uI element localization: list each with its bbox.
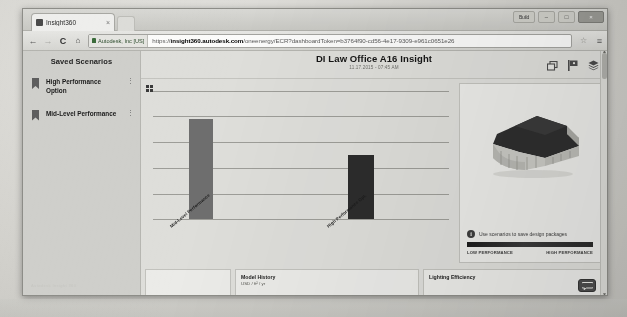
ssl-label: Autodesk, Inc [US] xyxy=(98,38,144,44)
window-controls: Build – □ × xyxy=(513,11,604,23)
feedback-icon xyxy=(582,282,593,290)
saved-scenarios-sidebar: Saved Scenarios High Performance Option … xyxy=(23,51,141,296)
bottom-card-model-history[interactable]: Model History USD / ft² / yr xyxy=(235,269,419,296)
chart-plot-area: Mid-Level Performance High Performance O… xyxy=(153,91,449,219)
sidebar-item-mid-level-performance[interactable]: Mid-Level Performance ⋮ xyxy=(23,109,140,121)
url-host: insight360.autodesk.com xyxy=(171,37,244,44)
info-icon: i xyxy=(467,230,475,238)
sidebar-title: Saved Scenarios xyxy=(23,57,140,66)
scenario-preview-card: i Use scenarios to save design packages … xyxy=(459,83,601,263)
ssl-badge: Autodesk, Inc [US] xyxy=(89,35,148,47)
photographed-page: Insight360 × Build – □ × ← → C ⌂ Autodes… xyxy=(0,0,627,317)
close-icon[interactable]: × xyxy=(106,19,110,26)
minimize-button[interactable]: – xyxy=(538,11,555,23)
bottom-card-1[interactable] xyxy=(145,269,231,296)
paper-fold-shadow xyxy=(0,299,627,317)
url-text: https://insight360.autodesk.com/oneenerg… xyxy=(148,37,458,44)
content-row: Mid-Level Performance High Performance O… xyxy=(141,79,607,267)
url-scheme: https:// xyxy=(152,37,170,44)
gridline xyxy=(153,116,449,117)
favicon-icon xyxy=(36,19,43,26)
page-title: DI Law Office A16 Insight xyxy=(141,51,607,64)
layers-icon[interactable] xyxy=(588,57,599,75)
page-watermark: Autodesk Insight 360 xyxy=(31,283,76,288)
address-bar[interactable]: Autodesk, Inc [US] https://insight360.au… xyxy=(88,34,572,48)
feedback-button[interactable] xyxy=(578,279,596,292)
bottom-card-title: Model History xyxy=(241,274,413,280)
scenario-notice: i Use scenarios to save design packages xyxy=(467,230,593,238)
scroll-down-icon[interactable]: ▼ xyxy=(602,292,607,296)
sidebar-item-label: High Performance Option xyxy=(46,77,120,96)
home-icon[interactable]: ⌂ xyxy=(73,36,83,45)
main-header: DI Law Office A16 Insight 11.17.2015 - 0… xyxy=(141,51,607,79)
new-tab-button[interactable] xyxy=(117,16,135,31)
sidebar-item-label: Mid-Level Performance xyxy=(46,109,120,118)
scrollbar-thumb[interactable] xyxy=(602,53,607,79)
browser-titlebar: Insight360 × Build – □ × xyxy=(23,9,607,31)
gridline xyxy=(153,91,449,92)
page-timestamp: 11.17.2015 - 07:45 AM xyxy=(141,65,607,70)
scale-low-label: LOW PERFORMANCE xyxy=(467,250,513,255)
back-icon[interactable]: ← xyxy=(28,36,38,46)
tab-label: Insight360 xyxy=(46,19,103,26)
building-3d-model xyxy=(475,108,587,186)
more-options-icon[interactable]: ⋮ xyxy=(127,78,133,83)
bookmark-icon xyxy=(32,110,39,121)
lock-icon xyxy=(92,38,96,43)
forward-icon[interactable]: → xyxy=(43,36,53,46)
bottom-widget-strip: Model History USD / ft² / yr Lighting Ef… xyxy=(141,267,607,296)
duplicate-icon[interactable] xyxy=(547,57,558,75)
energy-cost-bar-chart[interactable]: Mid-Level Performance High Performance O… xyxy=(141,79,457,267)
bookmark-icon xyxy=(32,78,39,89)
build-badge: Build xyxy=(513,11,535,23)
performance-scale-bar xyxy=(467,242,593,247)
sidebar-item-high-performance-option[interactable]: High Performance Option ⋮ xyxy=(23,77,140,96)
browser-toolbar: ← → C ⌂ Autodesk, Inc [US] https://insig… xyxy=(23,31,607,51)
scale-high-label: HIGH PERFORMANCE xyxy=(546,250,593,255)
building-model-viewport[interactable] xyxy=(467,90,593,227)
app-body: Saved Scenarios High Performance Option … xyxy=(23,51,607,296)
close-window-button[interactable]: × xyxy=(578,11,604,23)
browser-window: Insight360 × Build – □ × ← → C ⌂ Autodes… xyxy=(22,8,608,296)
browser-tab-insight360[interactable]: Insight360 × xyxy=(31,13,115,31)
flag-icon[interactable] xyxy=(568,57,578,75)
reload-icon[interactable]: C xyxy=(58,36,68,46)
bottom-card-subtitle: USD / ft² / yr xyxy=(241,281,413,286)
hamburger-menu-icon[interactable]: ≡ xyxy=(595,36,602,46)
maximize-button[interactable]: □ xyxy=(558,11,575,23)
axis-baseline xyxy=(153,219,449,220)
scenario-notice-text: Use scenarios to save design packages xyxy=(479,231,567,237)
url-path: /oneenergy/ECR?dashboardToken=b3764f90-c… xyxy=(243,37,454,44)
vertical-scrollbar[interactable]: ▲ ▼ xyxy=(600,51,607,296)
bookmark-star-icon[interactable]: ☆ xyxy=(577,36,590,45)
performance-scale-labels: LOW PERFORMANCE HIGH PERFORMANCE xyxy=(467,250,593,255)
bottom-card-lighting-efficiency[interactable]: Lighting Efficiency xyxy=(423,269,603,296)
more-options-icon[interactable]: ⋮ xyxy=(127,110,133,115)
header-actions xyxy=(547,57,599,75)
grid-view-icon[interactable] xyxy=(146,85,153,92)
main-panel: DI Law Office A16 Insight 11.17.2015 - 0… xyxy=(141,51,607,296)
bottom-card-title: Lighting Efficiency xyxy=(429,274,597,280)
